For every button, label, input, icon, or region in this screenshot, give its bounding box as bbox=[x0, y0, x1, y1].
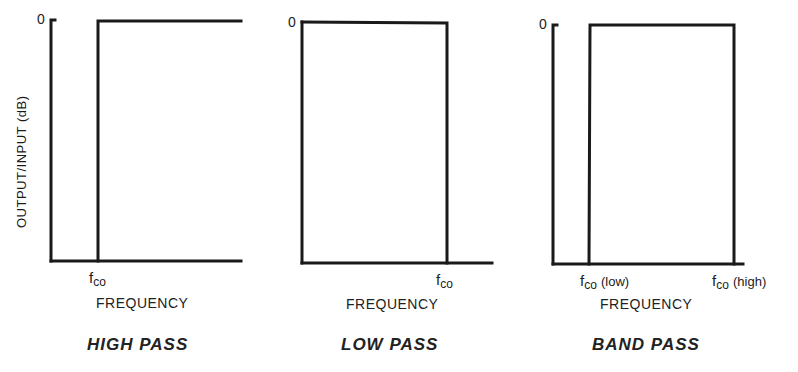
x-axis-label: FREQUENCY bbox=[600, 296, 692, 312]
response-curve bbox=[302, 22, 447, 263]
y-axis bbox=[51, 20, 55, 261]
cutoff-frequency-label: fco bbox=[89, 269, 106, 289]
x-axis-label: FREQUENCY bbox=[96, 295, 188, 311]
panel-title-band-pass: BAND PASS bbox=[592, 335, 700, 355]
band-pass-plot bbox=[553, 25, 743, 264]
filter-response-diagrams bbox=[0, 0, 798, 372]
high-pass-plot bbox=[51, 20, 241, 261]
cutoff-frequency-low-label: fco (low) bbox=[580, 272, 629, 292]
response-curve bbox=[98, 21, 241, 261]
y-axis bbox=[553, 25, 557, 264]
x-axis-label: FREQUENCY bbox=[346, 296, 438, 312]
low-pass-plot bbox=[302, 22, 492, 263]
y-axis-label: OUTPUT/INPUT (dB) bbox=[14, 96, 29, 229]
cutoff-frequency-high-label: fco (high) bbox=[712, 272, 766, 292]
zero-tick-label: 0 bbox=[288, 14, 296, 30]
response-curve bbox=[589, 25, 734, 264]
zero-tick-label: 0 bbox=[37, 11, 45, 27]
zero-tick-label: 0 bbox=[539, 16, 547, 32]
panel-title-high-pass: HIGH PASS bbox=[87, 335, 188, 355]
panel-title-low-pass: LOW PASS bbox=[341, 335, 438, 355]
cutoff-frequency-label: fco bbox=[436, 271, 453, 291]
